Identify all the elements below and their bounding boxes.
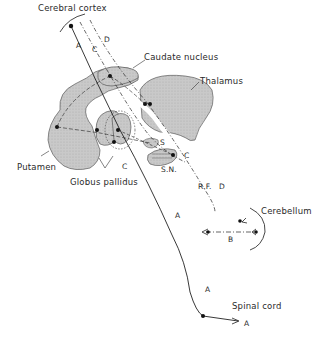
label-pathway-b: B bbox=[228, 236, 233, 244]
label-pathway-c1: C bbox=[92, 46, 97, 54]
label-pathway-a2: A bbox=[175, 212, 180, 220]
label-putamen: Putamen bbox=[17, 163, 56, 172]
label-substantia-nigra: S.N. bbox=[161, 166, 177, 174]
subthalamic-shape bbox=[143, 138, 158, 148]
label-pathway-d2: D bbox=[219, 183, 225, 191]
pathway-a bbox=[71, 26, 203, 316]
label-pathway-a4: A bbox=[244, 320, 249, 328]
label-spinal-cord: Spinal cord bbox=[232, 302, 282, 311]
substantia-nigra-shape bbox=[147, 149, 177, 166]
label-pathway-d1: D bbox=[104, 36, 110, 44]
label-pathway-a3: A bbox=[205, 286, 210, 294]
label-globus-pallidus: Globus pallidus bbox=[70, 178, 138, 187]
label-pathway-a1: A bbox=[76, 42, 81, 50]
label-pathway-c2: C bbox=[122, 163, 127, 171]
label-cerebral-cortex: Cerebral cortex bbox=[38, 4, 107, 13]
label-thalamus: Thalamus bbox=[200, 77, 243, 86]
label-cerebellum: Cerebellum bbox=[261, 207, 312, 216]
label-reticular-formation: R.F. bbox=[198, 183, 212, 191]
label-pathway-c3: C bbox=[184, 152, 189, 160]
label-caudate-nucleus: Caudate nucleus bbox=[144, 53, 218, 62]
globus-pallidus-inner bbox=[112, 113, 131, 144]
label-subthalamic: S bbox=[160, 139, 165, 147]
